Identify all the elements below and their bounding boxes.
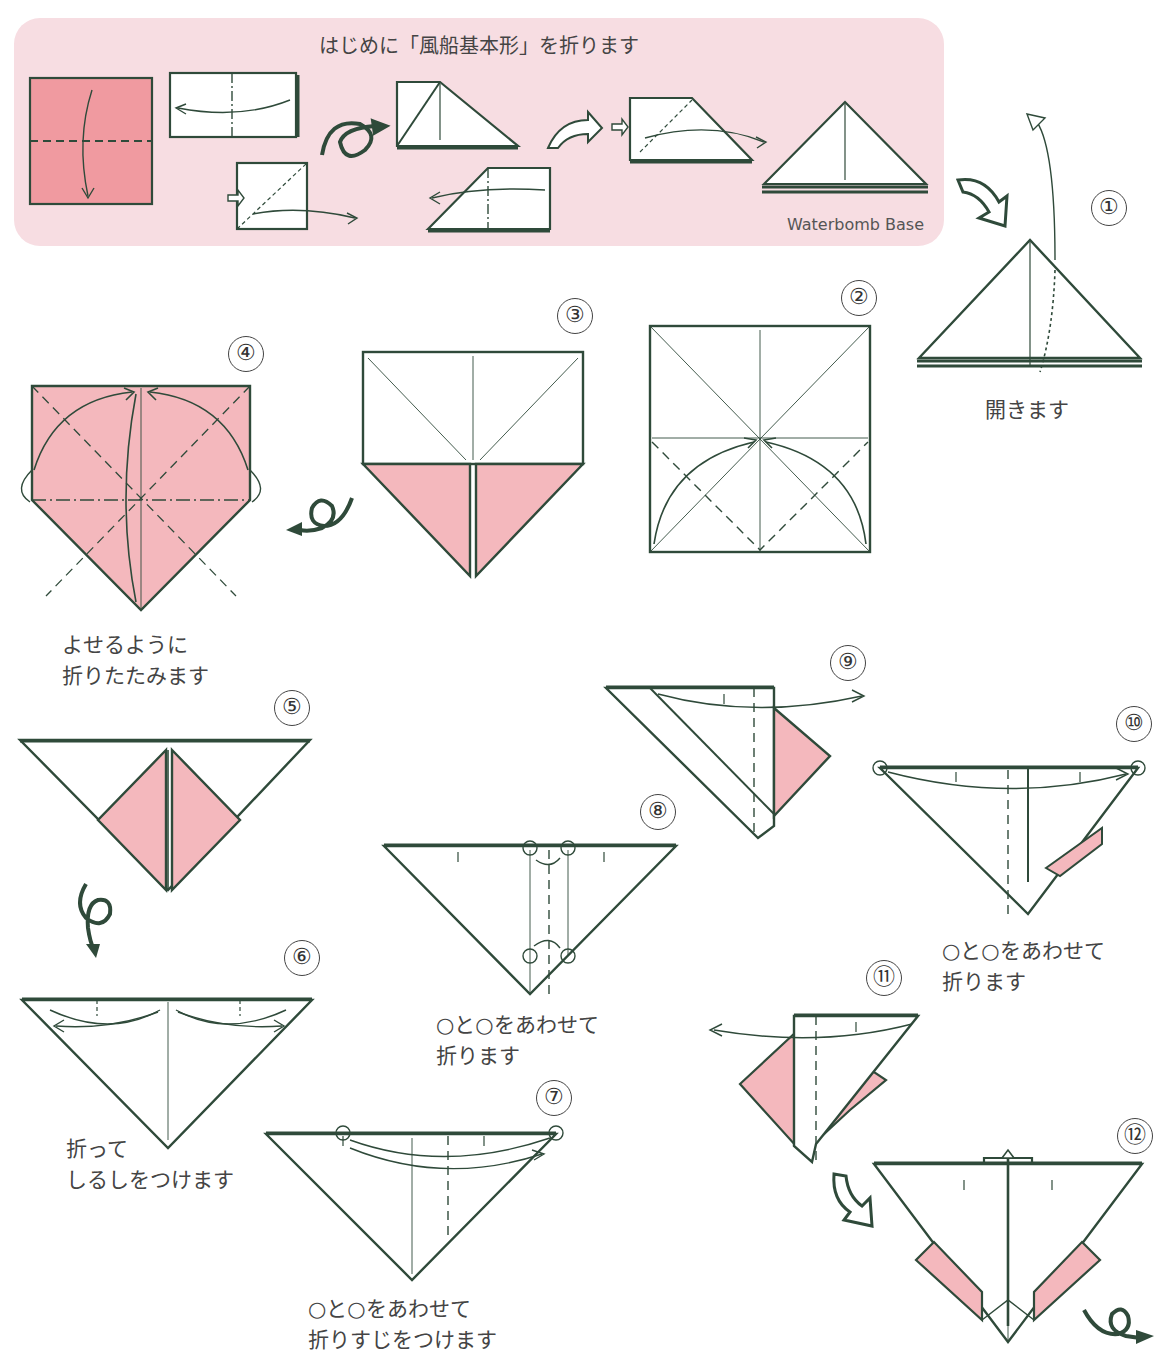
step-3-diagram xyxy=(360,348,590,583)
step-2-number: ② xyxy=(841,280,877,316)
step-5-diagram xyxy=(18,734,318,894)
step-1-note: 開きます xyxy=(985,395,1069,426)
step-10-number: ⑩ xyxy=(1116,706,1152,742)
step-8-note: ○と○をあわせて 折ります xyxy=(436,1010,599,1072)
turn-over-icon xyxy=(72,880,122,960)
turn-over-icon xyxy=(282,490,362,540)
step-12-number: ⑫ xyxy=(1117,1118,1153,1154)
step-4-note: よせるように 折りたたみます xyxy=(62,630,209,692)
step-6-number: ⑥ xyxy=(284,940,320,976)
step-9-number: ⑨ xyxy=(830,645,866,681)
step-2-diagram xyxy=(646,322,876,557)
step-1-diagram xyxy=(915,110,1155,370)
step-7-diagram xyxy=(264,1124,574,1284)
step-7-number: ⑦ xyxy=(536,1080,572,1116)
step-10-note: ○と○をあわせて 折ります xyxy=(942,936,1105,998)
step-11-number: ⑪ xyxy=(866,960,902,996)
step-9-diagram xyxy=(604,680,874,840)
step-5-number: ⑤ xyxy=(274,690,310,726)
step-8-diagram xyxy=(382,838,682,998)
step-6-note: 折って しるしをつけます xyxy=(66,1134,234,1196)
step-4-number: ④ xyxy=(228,336,264,372)
step-7-note: ○と○をあわせて 折りすじをつけます xyxy=(308,1294,497,1356)
step-4-diagram xyxy=(16,380,266,620)
step-3-number: ③ xyxy=(557,298,593,334)
turn-over-icon xyxy=(1080,1300,1160,1350)
step-10-diagram xyxy=(870,756,1150,926)
step-11-diagram xyxy=(700,1004,930,1174)
